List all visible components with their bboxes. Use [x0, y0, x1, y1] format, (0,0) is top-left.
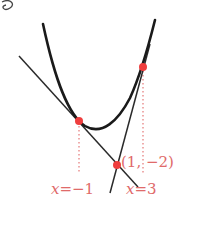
point-tangent-left [75, 117, 83, 125]
diagram-canvas [0, 0, 216, 226]
label-intersection: (1, −2) [121, 155, 174, 170]
label-value: =−1 [59, 180, 94, 198]
point-tangent-right [139, 63, 147, 71]
label-value: =3 [134, 180, 156, 198]
label-x-3: x=3 [126, 182, 157, 197]
parabola-curve [43, 20, 155, 129]
point-intersection [113, 161, 121, 169]
corner-mark-icon [2, 1, 12, 10]
label-x-minus-1: x=−1 [51, 182, 94, 197]
